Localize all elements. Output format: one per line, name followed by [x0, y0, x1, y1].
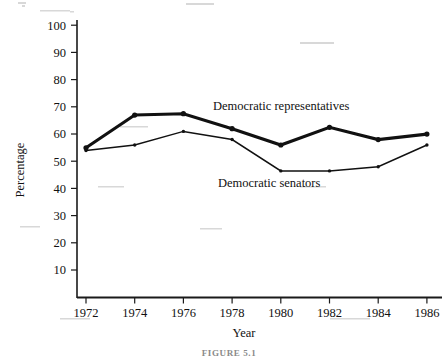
y-tick-20: 20 — [54, 236, 78, 250]
x-tick-1974: 1974 — [122, 298, 148, 321]
y-tick-70: 70 — [54, 100, 78, 114]
y-axis-title: Percentage — [13, 142, 27, 197]
x-axis-title: Year — [232, 326, 256, 340]
y-tick-label: 30 — [54, 209, 67, 223]
data-point — [377, 165, 380, 168]
data-point — [327, 125, 332, 130]
y-tick-label: 70 — [54, 100, 67, 114]
data-point — [181, 111, 186, 116]
x-tick-label: 1972 — [74, 306, 99, 320]
scan-artifacts — [18, 2, 370, 320]
y-tick-10: 10 — [54, 263, 78, 277]
x-tick-label: 1986 — [414, 306, 439, 320]
figure-caption: FIGURE 5.1 — [202, 348, 257, 358]
y-axis: 100 90 80 70 60 50 — [13, 19, 77, 299]
data-point — [133, 143, 136, 146]
x-tick-1984: 1984 — [366, 298, 392, 321]
representatives-series-label: Democratic representatives — [213, 99, 350, 113]
y-tick-30: 30 — [54, 209, 78, 223]
x-tick-label: 1974 — [122, 306, 148, 320]
y-tick-label: 80 — [54, 73, 67, 87]
data-point — [132, 112, 137, 117]
data-point — [328, 169, 331, 172]
x-tick-1976: 1976 — [171, 298, 196, 321]
data-point — [279, 169, 282, 172]
x-tick-label: 1980 — [268, 306, 293, 320]
data-point — [182, 130, 185, 133]
y-tick-60: 60 — [54, 127, 78, 141]
y-tick-100: 100 — [47, 19, 77, 33]
senators-series-label: Democratic senators — [218, 176, 321, 190]
data-point — [376, 137, 381, 142]
data-point — [278, 142, 283, 147]
x-tick-label: 1982 — [317, 306, 342, 320]
line-chart: 100 90 80 70 60 50 — [0, 0, 446, 358]
figure-container: 100 90 80 70 60 50 — [0, 0, 446, 358]
y-tick-label: 40 — [54, 182, 67, 196]
data-point — [230, 138, 233, 141]
y-tick-label: 10 — [54, 263, 67, 277]
x-tick-label: 1976 — [171, 306, 196, 320]
y-tick-50: 50 — [54, 155, 78, 169]
x-tick-1978: 1978 — [220, 298, 245, 321]
data-point — [425, 143, 428, 146]
data-point — [424, 132, 429, 137]
x-axis: 1972 1974 1976 1978 1980 1982 — [74, 298, 443, 341]
y-tick-label: 60 — [54, 127, 67, 141]
x-tick-label: 1984 — [366, 306, 392, 320]
data-point — [83, 145, 88, 150]
y-tick-label: 20 — [54, 236, 67, 250]
x-tick-1982: 1982 — [317, 298, 342, 321]
x-tick-label: 1978 — [220, 306, 245, 320]
representatives-line — [86, 114, 427, 148]
y-tick-label: 50 — [54, 155, 67, 169]
y-tick-90: 90 — [54, 46, 78, 60]
x-tick-1980: 1980 — [268, 298, 293, 321]
y-tick-label: 100 — [47, 19, 66, 33]
x-tick-1986: 1986 — [414, 298, 439, 321]
y-tick-80: 80 — [54, 73, 78, 87]
x-tick-1972: 1972 — [74, 298, 99, 321]
data-point — [230, 126, 235, 131]
y-tick-40: 40 — [54, 182, 78, 196]
y-tick-label: 90 — [54, 46, 67, 60]
